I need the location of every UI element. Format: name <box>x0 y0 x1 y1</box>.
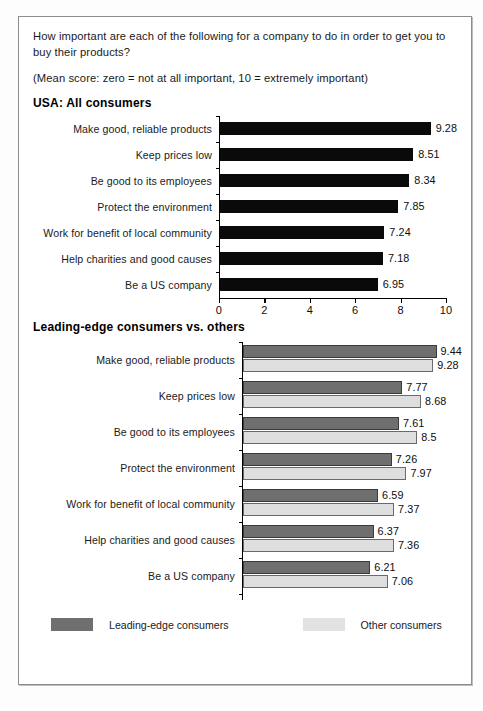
chart1-bar <box>220 148 413 161</box>
chart2-category-label: Keep prices low <box>33 390 242 402</box>
scale-note: (Mean score: zero = not at all important… <box>33 71 461 86</box>
chart1-plot-area: 9.28 <box>219 116 461 142</box>
chart1-category-label: Protect the environment <box>33 201 219 213</box>
chart1-row: Help charities and good causes7.18 <box>33 246 461 272</box>
chart2-bar-value: 8.68 <box>425 396 446 407</box>
chart2-bar-other <box>243 467 406 480</box>
chart2-bar-leading-edge <box>243 381 402 394</box>
chart1-plot-area: 7.18 <box>219 246 461 272</box>
chart1-x-tick <box>355 298 356 303</box>
chart1-row: Make good, reliable products9.28 <box>33 116 461 142</box>
chart2-bar-leading-edge <box>243 453 392 466</box>
chart1-bar <box>220 278 378 291</box>
chart2-bar-other <box>243 359 433 372</box>
chart1-rows: Make good, reliable products9.28Keep pri… <box>33 116 461 298</box>
page-canvas: How important are each of the following … <box>0 0 483 711</box>
legend-item: Leading-edge consumers <box>51 618 229 631</box>
chart1-row: Protect the environment7.85 <box>33 194 461 220</box>
chart2-bar-other <box>243 539 394 552</box>
chart2-bar-value: 7.61 <box>403 418 424 429</box>
chart-leading-edge-vs-others: Make good, reliable products9.449.28Keep… <box>33 342 461 600</box>
chart2-bar-value: 6.59 <box>382 490 403 501</box>
chart1-bar-value: 8.34 <box>414 175 435 186</box>
chart2-y-tick <box>239 450 243 451</box>
chart1-x-tick-label: 4 <box>307 304 313 316</box>
chart1-y-tick <box>216 220 220 221</box>
chart2-bar-leading-edge <box>243 489 378 502</box>
chart1-plot-area: 8.34 <box>219 168 461 194</box>
chart2-bar-value: 9.44 <box>441 346 462 357</box>
chart1-bar <box>220 226 384 239</box>
chart1-y-tick <box>216 194 220 195</box>
chart1-bar <box>220 252 383 265</box>
chart1-y-tick <box>216 246 220 247</box>
chart1-plot-area: 7.24 <box>219 220 461 246</box>
chart1-x-tick <box>310 298 311 303</box>
chart1-x-tick <box>219 298 220 303</box>
chart2-bar-leading-edge <box>243 561 370 574</box>
chart2-plot-area: 9.449.28 <box>242 342 461 378</box>
chart2-bar-leading-edge <box>243 417 399 430</box>
chart1-category-label: Help charities and good causes <box>33 253 219 265</box>
figure-frame: How important are each of the following … <box>18 16 472 685</box>
chart1-x-tick <box>264 298 265 303</box>
chart2-bar-value: 9.28 <box>437 360 458 371</box>
chart2-bar-value: 6.21 <box>374 562 395 573</box>
chart1-title: USA: All consumers <box>33 96 461 110</box>
chart1-bar-value: 7.18 <box>388 253 409 264</box>
legend-item: Other consumers <box>303 618 442 631</box>
chart2-plot-area: 7.618.5 <box>242 414 461 450</box>
chart2-y-tick <box>239 486 243 487</box>
chart1-x-tick-label: 8 <box>397 304 403 316</box>
chart2-row: Keep prices low7.778.68 <box>33 378 461 414</box>
legend-swatch <box>303 618 345 631</box>
chart1-bar <box>220 122 431 135</box>
chart2-plot-area: 6.217.06 <box>242 558 461 594</box>
chart1-x-tick-label: 6 <box>352 304 358 316</box>
chart2-bar-other <box>243 431 417 444</box>
chart2-bar-value: 7.36 <box>398 540 419 551</box>
chart2-category-label: Be a US company <box>33 570 242 582</box>
chart1-plot-area: 8.51 <box>219 142 461 168</box>
chart2-axis-foot-plot <box>242 594 461 600</box>
chart2-bar-leading-edge <box>243 345 437 358</box>
chart2-bar-other <box>243 395 421 408</box>
chart2-plot-area: 7.778.68 <box>242 378 461 414</box>
chart1-category-label: Be a US company <box>33 279 219 291</box>
chart1-row: Work for benefit of local community7.24 <box>33 220 461 246</box>
chart1-bar-value: 7.85 <box>403 201 424 212</box>
chart1-row: Keep prices low8.51 <box>33 142 461 168</box>
chart2-bar-other <box>243 575 388 588</box>
chart1-category-label: Keep prices low <box>33 149 219 161</box>
chart2-row: Be a US company6.217.06 <box>33 558 461 594</box>
chart2-category-label: Help charities and good causes <box>33 534 242 546</box>
chart1-category-label: Make good, reliable products <box>33 123 219 135</box>
chart2-row: Help charities and good causes6.377.36 <box>33 522 461 558</box>
chart2-plot-area: 6.377.36 <box>242 522 461 558</box>
figure-caption <box>0 692 483 711</box>
chart1-x-axis: 0246810 <box>219 298 461 320</box>
chart1-row: Be a US company6.95 <box>33 272 461 298</box>
chart2-bar-value: 7.06 <box>392 576 413 587</box>
chart1-x-tick-label: 0 <box>216 304 222 316</box>
chart2-y-tick <box>239 594 243 595</box>
legend-swatch <box>51 618 93 631</box>
chart1-axis-line <box>219 298 447 299</box>
chart1-bar <box>220 174 409 187</box>
chart2-row: Protect the environment7.267.97 <box>33 450 461 486</box>
chart-usa-all-consumers: Make good, reliable products9.28Keep pri… <box>33 116 461 320</box>
chart1-y-tick <box>216 272 220 273</box>
chart1-y-tick <box>216 168 220 169</box>
chart2-legend: Leading-edge consumersOther consumers <box>51 618 461 631</box>
chart2-row: Be good to its employees7.618.5 <box>33 414 461 450</box>
chart2-axis-foot <box>33 594 461 600</box>
legend-label: Other consumers <box>361 619 442 631</box>
chart2-category-label: Be good to its employees <box>33 426 242 438</box>
chart2-bar-value: 7.97 <box>410 468 431 479</box>
chart1-y-tick <box>216 142 220 143</box>
chart2-bar-value: 6.37 <box>378 526 399 537</box>
chart2-bar-value: 8.5 <box>421 432 436 443</box>
chart2-category-label: Protect the environment <box>33 462 242 474</box>
chart1-row: Be good to its employees8.34 <box>33 168 461 194</box>
chart2-title: Leading-edge consumers vs. others <box>33 320 461 334</box>
